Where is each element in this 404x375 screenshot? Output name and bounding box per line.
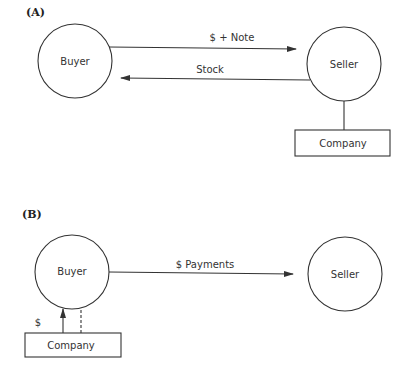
company-label: Company — [47, 340, 95, 351]
transaction-diagram: (A) Buyer Seller $ + Note Stock Company … — [0, 0, 404, 375]
panel-a-label: (A) — [26, 6, 45, 19]
panel-a: (A) Buyer Seller $ + Note Stock Company — [26, 6, 390, 156]
company-node-b: Company — [25, 333, 121, 357]
seller-label: Seller — [331, 269, 360, 280]
arrow-payments — [109, 272, 293, 274]
arrow-label-payments: $ Payments — [176, 259, 235, 270]
company-label: Company — [319, 138, 367, 149]
dollar-label: $ — [35, 317, 41, 328]
seller-node-a: Seller — [307, 27, 381, 101]
buyer-node-b: Buyer — [35, 235, 109, 309]
arrow-seller-to-buyer — [121, 78, 310, 80]
arrow-buyer-to-seller — [109, 47, 296, 49]
company-node-a: Company — [295, 130, 390, 156]
buyer-node-a: Buyer — [38, 24, 112, 98]
arrow-label-stock: Stock — [196, 64, 224, 75]
seller-node-b: Seller — [308, 237, 382, 311]
panel-b-label: (B) — [22, 208, 42, 221]
seller-label: Seller — [330, 59, 359, 70]
buyer-label: Buyer — [57, 266, 87, 277]
buyer-label: Buyer — [60, 56, 90, 67]
arrow-label-note: $ + Note — [210, 32, 255, 43]
panel-b: (B) Buyer Seller $ Payments $ Company — [22, 208, 382, 357]
